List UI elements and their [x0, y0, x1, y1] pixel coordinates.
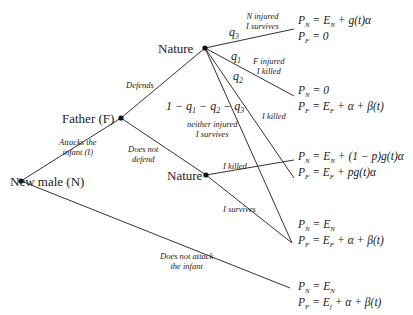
node-dot-nature-bottom	[203, 172, 208, 177]
node-dot-nature-top	[202, 45, 207, 50]
node-label-new-male: New male (N)	[10, 175, 84, 188]
payoff-4-n: PN = EN	[298, 218, 384, 234]
node-label-nature-top: Nature	[158, 42, 193, 55]
action-n-injured-line2: I survives	[246, 22, 279, 32]
payoff-1-n: PN = EN + g(t)α	[298, 14, 371, 30]
action-f-injured: F injured I killed	[253, 57, 285, 77]
action-n-injured: N injured I survives	[246, 12, 279, 32]
edge-i-killed	[206, 160, 294, 175]
action-i-survives-nature: I survives	[223, 205, 256, 215]
payoff-5: PN = EN PF = Ef + α + β(t)	[298, 280, 381, 312]
edge-no-attack	[21, 181, 290, 288]
prob-q1: q1	[231, 50, 241, 65]
action-f-injured-line2: I killed	[253, 67, 285, 77]
payoff-4: PN = EN PF = EF + α + β(t)	[298, 218, 384, 250]
action-attacks: Attacks the infant (I)	[59, 138, 97, 158]
action-neither-line2: I survives	[187, 130, 237, 140]
payoff-3-f: PF = EF + pg(t)α	[298, 166, 404, 182]
edge-q3	[205, 29, 294, 48]
payoff-1-f: PF = 0	[298, 30, 371, 46]
action-i-killed-q2: I killed	[262, 112, 286, 122]
payoff-3: PN = EN + (1 − p)g(t)α PF = EF + pg(t)α	[298, 150, 404, 182]
action-i-killed-nature: I killed	[223, 162, 247, 172]
prob-q3: q3	[229, 26, 239, 41]
action-defends: Defends	[126, 81, 154, 91]
prob-rest: 1 − q1 − q2 − q3	[166, 100, 244, 115]
action-attacks-line2: infant (I)	[59, 148, 97, 158]
action-no-attack: Does not attack the infant	[160, 252, 213, 272]
node-label-nature-bottom: Nature	[167, 169, 202, 182]
action-no-defend-line2: defend	[128, 155, 158, 165]
payoff-2-n: PN = 0	[298, 84, 384, 100]
action-no-attack-line2: the infant	[160, 262, 213, 272]
payoff-4-f: PF = EF + α + β(t)	[298, 234, 384, 250]
node-label-father: Father (F)	[62, 112, 114, 125]
action-neither-injured: neither injured I survives	[187, 120, 237, 140]
payoff-3-n: PN = EN + (1 − p)g(t)α	[298, 150, 404, 166]
payoff-1: PN = EN + g(t)α PF = 0	[298, 14, 371, 46]
prob-q2: q2	[233, 70, 243, 85]
payoff-5-n: PN = EN	[298, 280, 381, 296]
payoff-2: PN = 0 PF = EF + α + β(t)	[298, 84, 384, 116]
payoff-2-f: PF = EF + α + β(t)	[298, 100, 384, 116]
payoff-5-f: PF = Ef + α + β(t)	[298, 296, 381, 312]
action-no-defend: Does not defend	[128, 145, 158, 165]
node-dot-father	[118, 115, 123, 120]
